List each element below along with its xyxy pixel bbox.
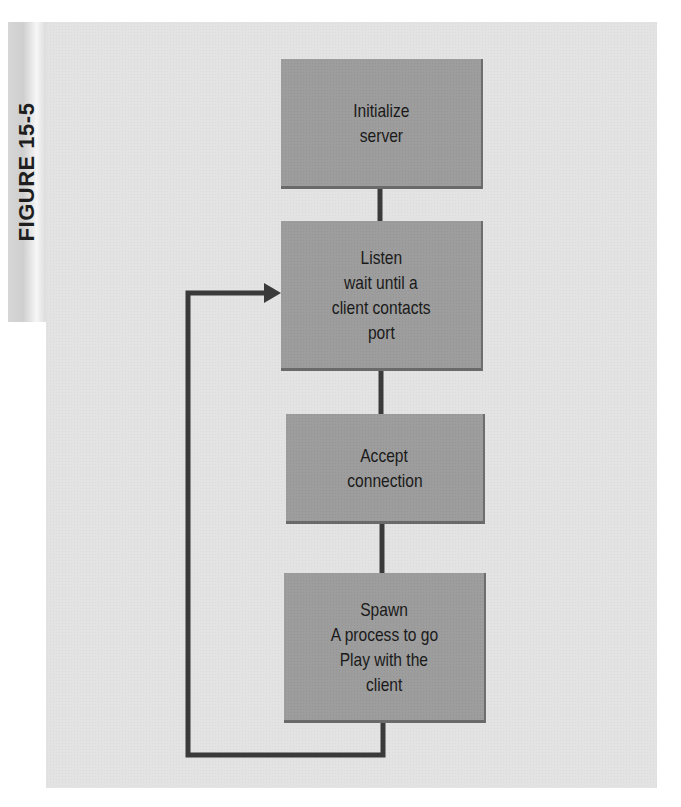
step-initialize-server: Initialize server: [281, 59, 483, 189]
step-accept-connection: Accept connection: [286, 414, 485, 524]
step-text: server: [359, 123, 402, 148]
step-text: Listen: [360, 245, 402, 270]
step-text: client: [366, 672, 402, 697]
step-text: wait until a: [344, 270, 418, 295]
step-text: A process to go: [330, 622, 437, 647]
step-listen: Listen wait until a client contacts port: [281, 221, 483, 371]
step-text: client contacts: [332, 295, 431, 320]
step-text: port: [368, 320, 395, 345]
arrowhead-icon: [264, 283, 281, 303]
step-text: Accept: [361, 443, 409, 468]
step-text: Spawn: [360, 597, 408, 622]
step-text: Play with the: [340, 647, 428, 672]
step-text: connection: [347, 468, 422, 493]
step-text: Initialize: [353, 98, 409, 123]
step-spawn-process: Spawn A process to go Play with the clie…: [284, 573, 486, 723]
